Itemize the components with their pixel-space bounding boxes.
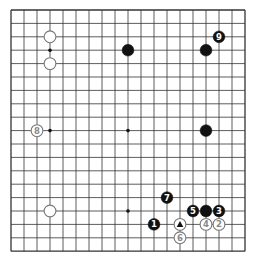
move-number: 9 [216,32,222,42]
black-stone: 5 [187,205,199,217]
star-point [48,129,52,133]
move-number: 1 [151,219,157,229]
white-stone: 8 [31,125,43,137]
move-number: 2 [216,219,222,229]
black-stone [200,44,212,56]
move-number: 3 [216,206,222,216]
black-stone [122,44,134,56]
move-number: 8 [34,126,40,136]
black-stone: 7 [161,192,173,204]
white-stone [44,58,56,70]
star-point [48,48,52,52]
star-point [126,129,130,133]
white-stone: 6 [174,232,186,244]
white-stone [174,219,186,231]
black-stone: 9 [213,31,225,43]
white-stone [44,31,56,43]
move-number: 4 [203,219,209,229]
move-number: 6 [177,233,183,243]
white-stone: 2 [213,219,225,231]
black-stone: 1 [148,219,160,231]
white-stone: 4 [200,219,212,231]
black-stone: 3 [213,205,225,217]
black-stone [200,125,212,137]
move-number: 5 [190,206,196,216]
star-point [126,209,130,213]
white-stone [44,205,56,217]
black-stone [200,205,212,217]
go-board: 987531426 [0,0,253,264]
move-number: 7 [164,193,170,203]
